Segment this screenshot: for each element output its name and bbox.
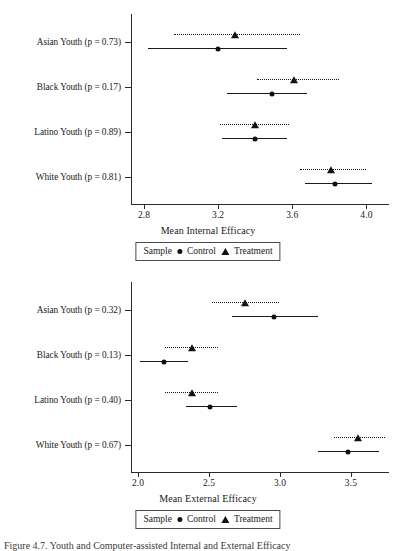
plot-area-external: 2.02.53.03.5Asian Youth (p = 0.32)Black … [131, 276, 385, 461]
x-axis-line [131, 204, 389, 205]
legend-control-label: Control [187, 513, 216, 525]
y-axis-category-label: Black Youth (p = 0.17) [37, 82, 121, 92]
x-axis-tick [209, 472, 210, 477]
x-axis-tick [218, 204, 219, 209]
circle-marker-icon [177, 517, 182, 522]
chart-panel-internal-efficacy: 2.83.23.64.0Asian Youth (p = 0.73)Black … [0, 0, 416, 268]
control-point-marker [208, 405, 213, 410]
x-axis-tick-label: 2.5 [203, 478, 215, 488]
y-axis-tick [125, 42, 131, 43]
y-axis-tick [125, 355, 131, 356]
legend-title: Sample [143, 513, 172, 525]
circle-marker-icon [177, 249, 182, 254]
legend-internal: Sample Control Treatment [135, 242, 280, 261]
confidence-interval-line [305, 183, 372, 184]
x-axis-tick [280, 472, 281, 477]
y-axis-line [131, 14, 132, 204]
y-axis-tick [125, 400, 131, 401]
legend-title: Sample [143, 245, 172, 257]
x-axis-title-external: Mean External Efficacy [0, 493, 416, 504]
legend-treatment-label: Treatment [234, 245, 273, 257]
treatment-point-marker [354, 434, 362, 441]
legend-control-label: Control [187, 245, 216, 257]
control-point-marker [216, 47, 221, 52]
triangle-marker-icon [221, 516, 229, 523]
y-axis-category-label: White Youth (p = 0.67) [36, 440, 121, 450]
x-axis-tick-label: 2.8 [138, 210, 150, 220]
control-point-marker [269, 92, 274, 97]
legend-external: Sample Control Treatment [135, 510, 280, 529]
y-axis-category-label: White Youth (p = 0.81) [36, 172, 121, 182]
x-axis-tick [366, 204, 367, 209]
y-axis-tick [125, 87, 131, 88]
treatment-point-marker [290, 76, 298, 83]
chart-panel-external-efficacy: 2.02.53.03.5Asian Youth (p = 0.32)Black … [0, 268, 416, 533]
y-axis-tick [125, 310, 131, 311]
y-axis-line [131, 282, 132, 472]
control-point-marker [253, 137, 258, 142]
legend-treatment-label: Treatment [234, 513, 273, 525]
x-axis-tick [144, 204, 145, 209]
y-axis-category-label: Black Youth (p = 0.13) [37, 350, 121, 360]
x-axis-tick-label: 2.0 [132, 478, 144, 488]
control-point-marker [332, 182, 337, 187]
triangle-marker-icon [221, 248, 229, 255]
x-axis-tick [351, 472, 352, 477]
treatment-point-marker [188, 389, 196, 396]
treatment-point-marker [251, 121, 259, 128]
x-axis-tick-label: 3.0 [274, 478, 286, 488]
control-point-marker [272, 315, 277, 320]
y-axis-category-label: Asian Youth (p = 0.73) [37, 37, 121, 47]
x-axis-tick-label: 3.6 [286, 210, 298, 220]
x-axis-tick [292, 204, 293, 209]
treatment-point-marker [231, 31, 239, 38]
y-axis-category-label: Asian Youth (p = 0.32) [37, 305, 121, 315]
y-axis-category-label: Latino Youth (p = 0.40) [34, 395, 121, 405]
confidence-interval-line [227, 93, 307, 94]
x-axis-tick-label: 4.0 [360, 210, 372, 220]
treatment-point-marker [327, 166, 335, 173]
treatment-point-marker [241, 299, 249, 306]
plot-area-internal: 2.83.23.64.0Asian Youth (p = 0.73)Black … [131, 8, 385, 193]
y-axis-tick [125, 177, 131, 178]
control-point-marker [161, 360, 166, 365]
x-axis-title-internal: Mean Internal Efficacy [0, 225, 416, 236]
y-axis-tick [125, 445, 131, 446]
figure-caption: Figure 4.7. Youth and Computer-assisted … [4, 540, 416, 551]
treatment-point-marker [188, 344, 196, 351]
x-axis-tick-label: 3.5 [345, 478, 357, 488]
x-axis-tick [138, 472, 139, 477]
control-point-marker [346, 450, 351, 455]
y-axis-tick [125, 132, 131, 133]
x-axis-tick-label: 3.2 [212, 210, 224, 220]
y-axis-category-label: Latino Youth (p = 0.89) [34, 127, 121, 137]
